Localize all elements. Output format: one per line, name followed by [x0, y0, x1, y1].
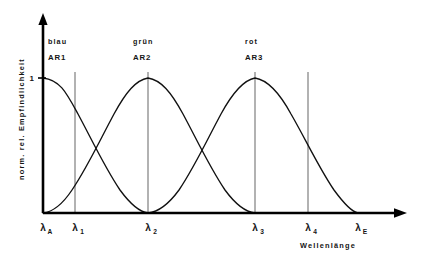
annotation-code: AR3: [245, 53, 263, 62]
x-tick-label-lambda-4: λ 4: [305, 222, 317, 235]
annotation-rot-ar3: rot AR3: [245, 37, 263, 62]
x-tick-label-lambda-e: λ E: [355, 222, 368, 235]
tick-subscript: A: [48, 228, 53, 235]
tick-subscript: 3: [260, 228, 264, 235]
figure-canvas: norm. rel. Empfindlichkeit Wellenlänge 1…: [0, 0, 428, 264]
gridlines: [75, 72, 308, 213]
x-tick-labels: λ A λ 1 λ 2 λ 3 λ 4 λ E: [40, 222, 368, 235]
y-axis-title: norm. rel. Empfindlichkeit: [17, 58, 26, 180]
tick-subscript: 2: [153, 228, 157, 235]
y-tick-label-1: 1: [30, 74, 35, 83]
tick-base: λ: [305, 222, 311, 233]
x-axis-title: Wellenlänge: [300, 241, 356, 250]
annotation-name: blau: [48, 37, 67, 46]
annotation-blau-ar1: blau AR1: [48, 37, 67, 62]
curve-rot-ar3: [148, 78, 358, 213]
x-tick-label-lambda-a: λ A: [40, 222, 52, 235]
annotation-name: rot: [245, 37, 258, 46]
x-tick-label-lambda-3: λ 3: [252, 222, 264, 235]
annotation-code: AR1: [48, 53, 66, 62]
tick-base: λ: [40, 222, 46, 233]
annotation-code: AR2: [133, 53, 151, 62]
tick-base: λ: [252, 222, 258, 233]
tick-subscript: 4: [313, 228, 317, 235]
annotation-gruen-ar2: grün AR2: [133, 37, 153, 62]
tick-base: λ: [72, 222, 78, 233]
tick-base: λ: [145, 222, 151, 233]
x-axis-arrow-icon: [394, 208, 407, 218]
x-tick-label-lambda-1: λ 1: [72, 222, 84, 235]
x-tick-label-lambda-2: λ 2: [145, 222, 157, 235]
curve-blau-ar1: [43, 78, 148, 213]
curve-group: [43, 78, 358, 213]
y-axis-arrow-icon: [38, 13, 47, 25]
tick-base: λ: [355, 222, 361, 233]
curve-annotations: blau AR1 grün AR2 rot AR3: [48, 37, 263, 62]
annotation-name: grün: [133, 37, 153, 46]
tick-subscript: E: [363, 228, 368, 235]
tick-subscript: 1: [80, 228, 84, 235]
y-axis: [38, 13, 48, 213]
